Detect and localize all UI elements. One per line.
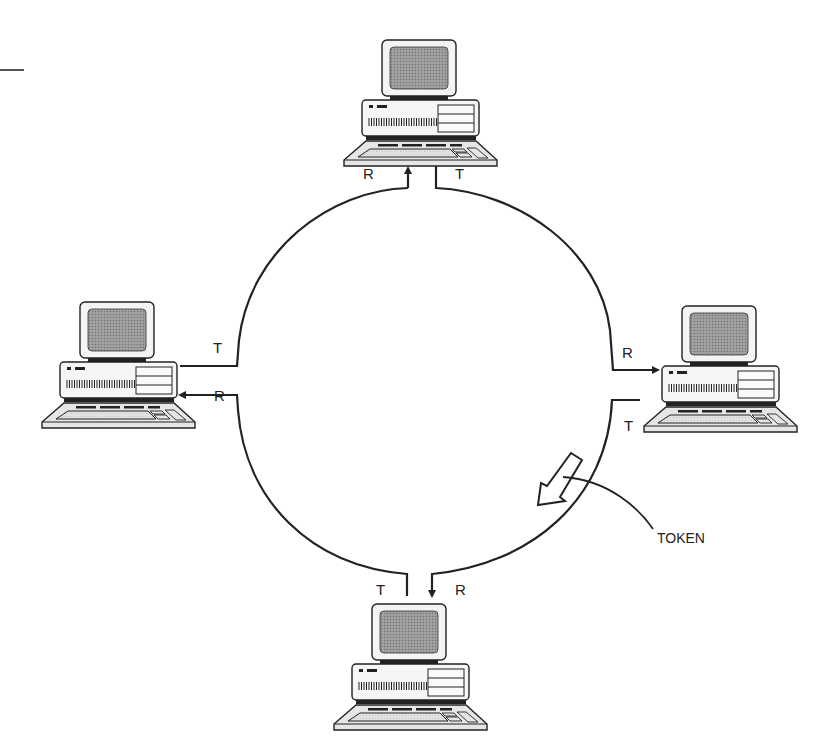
left-transmit-label: T (213, 340, 222, 355)
computer-left (42, 302, 195, 428)
right-transmit-label: T (624, 418, 633, 433)
top-receive-label: R (363, 166, 374, 181)
token-leader-line (563, 477, 653, 529)
computer-top (344, 40, 497, 166)
computer-bottom (334, 604, 487, 730)
right-receive-label: R (622, 345, 633, 360)
cable-top-transmit-to-right-receive (436, 166, 658, 370)
bottom-receive-label: R (455, 582, 466, 597)
bottom-transmit-label: T (376, 582, 385, 597)
cable-bottom-transmit-to-left-receive (180, 395, 407, 596)
left-receive-label: R (214, 388, 225, 403)
token-ring-diagram (0, 0, 835, 754)
token-label: TOKEN (657, 531, 705, 545)
ring-cable (180, 166, 658, 596)
cable-right-transmit-to-bottom-receive (432, 400, 640, 596)
computer-right (644, 306, 797, 432)
top-transmit-label: T (455, 166, 464, 181)
